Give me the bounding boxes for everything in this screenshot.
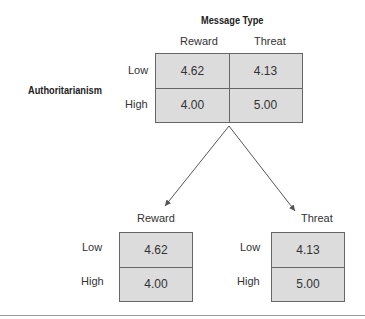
bottom-rule (0, 315, 365, 316)
split-title-reward: Reward (137, 212, 175, 224)
split-divider-reward (120, 267, 192, 268)
split-cell-threat-low: 4.13 (272, 233, 344, 267)
split-label-low-threat: Low (240, 241, 260, 253)
split-table-threat: 4.13 5.00 (271, 232, 345, 302)
split-table-reward: 4.62 4.00 (119, 232, 193, 302)
split-label-high-threat: High (237, 275, 260, 287)
split-divider-threat (272, 267, 344, 268)
split-title-threat: Threat (301, 212, 333, 224)
split-cell-reward-high: 4.00 (120, 267, 192, 301)
split-cell-reward-low: 4.62 (120, 233, 192, 267)
split-cell-threat-high: 5.00 (272, 267, 344, 301)
split-label-low-reward: Low (82, 241, 102, 253)
arrow-to-reward (165, 126, 229, 206)
split-label-high-reward: High (81, 275, 104, 287)
arrow-to-threat (229, 126, 295, 211)
